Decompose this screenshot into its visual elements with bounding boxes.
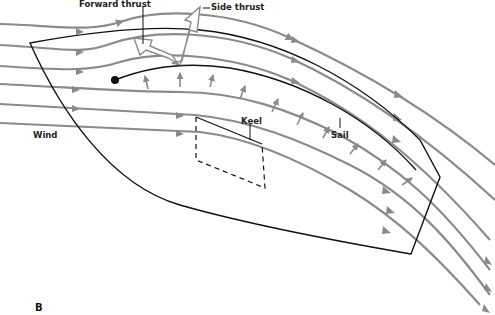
streamline-arrowheads: [72, 28, 492, 313]
sailing-force-diagram: [0, 0, 495, 315]
wind-streamlines: [0, 14, 495, 305]
forward-thrust-label: Forward thrust: [79, 0, 151, 9]
forward-thrust-arrow: [134, 38, 178, 64]
streamline-5: [0, 104, 490, 295]
streamline-4: [0, 84, 490, 270]
keel-label: Keel: [241, 116, 262, 126]
wind-label: Wind: [33, 130, 57, 140]
side-thrust-label: Side thrust: [211, 2, 264, 12]
streamline-3: [0, 56, 490, 240]
keel: [196, 117, 265, 188]
sail-label: Sail: [331, 130, 349, 140]
panel-letter: B: [35, 302, 43, 313]
streamline-6: [0, 123, 480, 305]
mast: [111, 76, 119, 84]
